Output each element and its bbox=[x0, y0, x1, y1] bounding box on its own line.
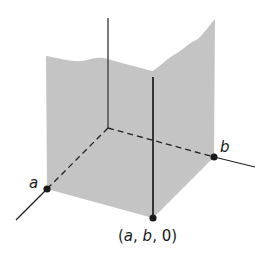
label-paren-close: ) bbox=[171, 227, 177, 245]
label-a: a bbox=[29, 174, 38, 192]
3d-region-diagram: a b (a, b, 0) bbox=[0, 0, 268, 260]
y-axis bbox=[214, 157, 255, 167]
point-ab0 bbox=[149, 214, 156, 221]
label-point-ab0: (a, b, 0) bbox=[118, 227, 177, 245]
label-point-a: a bbox=[124, 227, 133, 245]
point-a bbox=[43, 185, 50, 192]
x-axis bbox=[16, 189, 47, 220]
point-b bbox=[210, 153, 217, 160]
label-sep2: , bbox=[152, 227, 162, 245]
label-point-b: b bbox=[143, 227, 153, 245]
label-point-zero: 0 bbox=[162, 227, 172, 245]
label-sep1: , bbox=[133, 227, 143, 245]
shaded-region bbox=[46, 19, 215, 218]
label-b: b bbox=[220, 138, 230, 156]
